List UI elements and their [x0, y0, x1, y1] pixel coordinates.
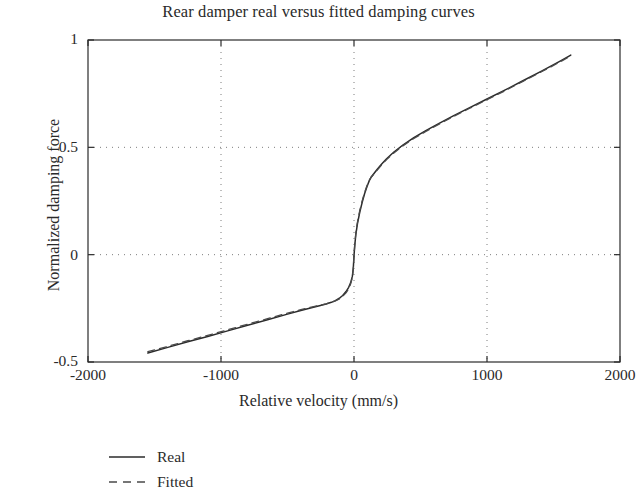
x-tick-label: 1000 — [437, 366, 537, 384]
legend-item-fitted: Fitted — [108, 469, 193, 494]
legend-line-dashed-icon — [108, 476, 146, 488]
x-tick-label: 2000 — [570, 366, 637, 384]
chart-figure: Rear damper real versus fitted damping c… — [0, 0, 637, 495]
x-tick-label: 0 — [304, 366, 404, 384]
x-axis-label: Relative velocity (mm/s) — [0, 392, 637, 410]
legend-label-real: Real — [157, 448, 185, 466]
x-tick-label: -2000 — [38, 366, 138, 384]
y-tick-label: 0 — [8, 246, 78, 264]
y-axis-label: Normalized damping force — [45, 55, 63, 355]
y-tick-label: 1 — [8, 30, 78, 48]
y-tick-label: 0.5 — [8, 138, 78, 156]
x-tick-label: -1000 — [171, 366, 271, 384]
chart-legend: Real Fitted — [108, 444, 193, 494]
plot-canvas — [0, 0, 637, 495]
legend-item-real: Real — [108, 444, 193, 469]
legend-label-fitted: Fitted — [157, 473, 193, 491]
legend-line-solid-icon — [108, 451, 146, 463]
